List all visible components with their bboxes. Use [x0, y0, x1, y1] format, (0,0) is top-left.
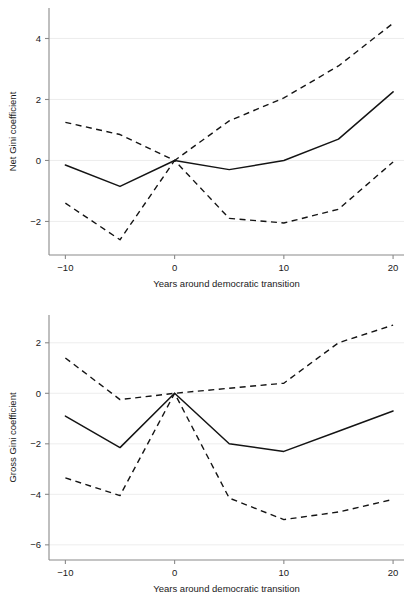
series-dashed-1 — [65, 23, 393, 160]
y-tick-label-3: 0 — [36, 388, 41, 399]
x-tick-label-1: 0 — [172, 567, 177, 578]
y-tick-label-3: 4 — [36, 33, 41, 44]
series-dashed-2 — [65, 160, 393, 239]
x-tick-label-2: 10 — [279, 567, 290, 578]
chart-panel-gross-gini: −6−4−202−1001020Years around democratic … — [0, 303, 415, 606]
y-tick-label-4: 2 — [36, 337, 41, 348]
figure-two-panel-gini: −2024−1001020Years around democratic tra… — [0, 0, 415, 606]
y-tick-label-1: 0 — [36, 155, 41, 166]
x-tick-label-0: −10 — [57, 262, 73, 273]
series-solid-0 — [65, 393, 393, 451]
y-axis-title: Gross Gini coefficient — [7, 392, 18, 482]
x-tick-label-3: 20 — [388, 567, 399, 578]
x-tick-label-2: 10 — [279, 262, 290, 273]
chart-panel-net-gini: −2024−1001020Years around democratic tra… — [0, 0, 415, 303]
y-tick-label-2: −2 — [30, 438, 41, 449]
y-axis-title: Net Gini coefficient — [7, 91, 18, 171]
x-tick-label-3: 20 — [388, 262, 399, 273]
y-tick-label-2: 2 — [36, 94, 41, 105]
x-axis-title: Years around democratic transition — [153, 278, 299, 289]
x-tick-label-1: 0 — [172, 262, 177, 273]
x-tick-label-0: −10 — [57, 567, 73, 578]
series-solid-0 — [65, 92, 393, 187]
series-dashed-2 — [65, 393, 393, 519]
series-dashed-1 — [65, 325, 393, 400]
y-tick-label-0: −2 — [30, 216, 41, 227]
net-gini-plot: −2024−1001020Years around democratic tra… — [0, 0, 415, 303]
y-tick-label-1: −4 — [30, 489, 41, 500]
gross-gini-plot: −6−4−202−1001020Years around democratic … — [0, 303, 415, 606]
x-axis-title: Years around democratic transition — [153, 583, 299, 594]
y-tick-label-0: −6 — [30, 539, 41, 550]
